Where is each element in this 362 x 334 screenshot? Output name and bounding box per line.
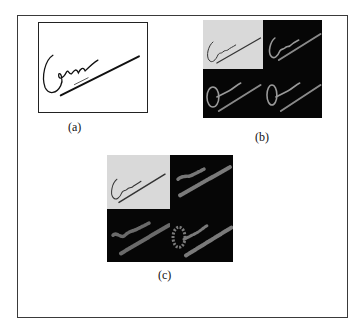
- panel-b-grayscale-cell: [203, 20, 263, 69]
- panel-c-blur-cell-2: [107, 209, 170, 263]
- panel-c-blur-cell-1: [170, 155, 233, 209]
- signature-drawing: [39, 23, 147, 112]
- panel-b-grid: [203, 20, 322, 118]
- panel-c-grayscale-cell: [107, 155, 170, 209]
- panel-a-label: (a): [68, 120, 81, 135]
- panel-a-signature-image: [38, 22, 148, 113]
- panel-b-edge-cell-1: [263, 20, 323, 69]
- panel-b-edge-cell-2: [203, 69, 263, 118]
- panel-c-label: (c): [158, 268, 171, 283]
- panel-c-blur-cell-3: [170, 209, 233, 263]
- panel-b-label: (b): [255, 130, 269, 145]
- panel-c-grid: [107, 155, 233, 262]
- panel-b-edge-cell-3: [263, 69, 323, 118]
